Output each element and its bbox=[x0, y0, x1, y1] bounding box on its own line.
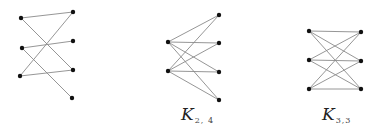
vertex bbox=[71, 68, 75, 72]
vertex bbox=[166, 69, 170, 73]
edge bbox=[168, 43, 219, 71]
vertex bbox=[20, 46, 24, 50]
label-k33-subscript: 3,3 bbox=[336, 116, 352, 125]
vertex bbox=[307, 29, 311, 33]
edge bbox=[20, 12, 73, 76]
vertex bbox=[71, 10, 75, 14]
vertex bbox=[217, 13, 221, 17]
vertex bbox=[217, 41, 221, 45]
vertex bbox=[70, 96, 74, 100]
edge bbox=[21, 12, 73, 18]
edge bbox=[309, 31, 361, 32]
vertex bbox=[359, 87, 363, 91]
vertex bbox=[359, 30, 363, 34]
label-k24-subscript: 2, 4 bbox=[195, 116, 214, 125]
edge bbox=[168, 71, 219, 100]
vertex bbox=[307, 87, 311, 91]
graph-1 bbox=[18, 10, 75, 100]
graph-k33 bbox=[307, 29, 363, 91]
vertex bbox=[71, 39, 75, 43]
label-k33: K3,3 bbox=[322, 106, 351, 125]
edge bbox=[22, 41, 73, 48]
label-k33-main: K bbox=[322, 104, 335, 124]
edge bbox=[168, 71, 219, 72]
vertex bbox=[359, 59, 363, 63]
vertex bbox=[19, 16, 23, 20]
vertex bbox=[166, 40, 170, 44]
vertex bbox=[217, 98, 221, 102]
vertex bbox=[18, 74, 22, 78]
label-k24-main: K bbox=[181, 104, 194, 124]
edge bbox=[20, 70, 73, 76]
label-k24: K2, 4 bbox=[181, 106, 214, 125]
edge bbox=[309, 32, 361, 60]
edge bbox=[168, 15, 219, 42]
vertex bbox=[217, 70, 221, 74]
graph-k24 bbox=[166, 13, 221, 102]
vertex bbox=[307, 58, 311, 62]
